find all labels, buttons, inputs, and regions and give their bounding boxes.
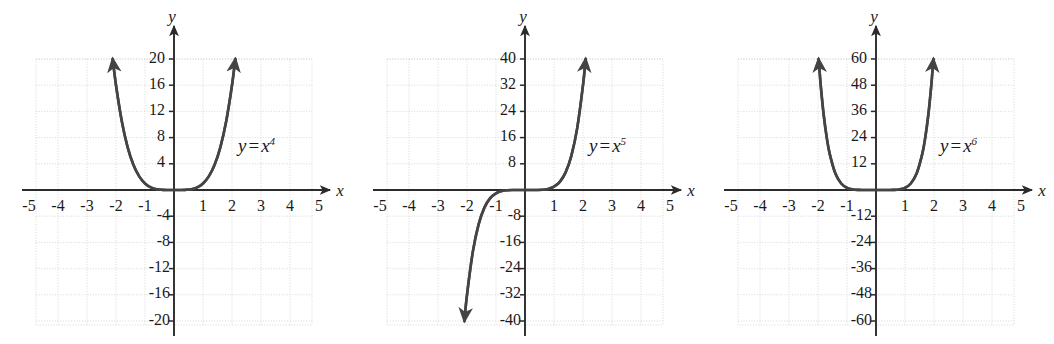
axis-letter-labels: xy (517, 7, 695, 200)
y-axis-tick-labels: 1224364860-12-24-36-48-60 (851, 49, 872, 328)
y-tick-label: 12 (149, 101, 165, 118)
x-tick-label: -3 (782, 197, 795, 214)
x-tick-label: -2 (811, 197, 824, 214)
x-tick-label: -2 (109, 197, 122, 214)
graph-panel-3: xy-5-4-3-2-1123451224364860-12-24-36-48-… (702, 0, 1053, 344)
y-tick-label: 32 (500, 75, 516, 92)
graph-canvas: xy-5-4-3-2-112345816243240-8-16-24-32-40 (351, 0, 702, 344)
y-tick-label: 24 (851, 127, 867, 144)
x-axis-label: x (686, 181, 695, 200)
x-tick-label: 2 (579, 197, 587, 214)
equation-annotation: y=x6 (940, 135, 977, 157)
y-tick-label: -16 (149, 284, 170, 301)
y-tick-label: -20 (149, 311, 170, 328)
x-tick-label: -3 (431, 197, 444, 214)
x-axis-tick-labels: -5-4-3-2-112345 (724, 197, 1025, 214)
y-tick-label: -4 (157, 206, 170, 223)
y-tick-label: 4 (157, 153, 165, 170)
y-tick-label: -12 (149, 258, 170, 275)
x-axis-label: x (335, 181, 344, 200)
x-tick-label: 5 (1017, 197, 1025, 214)
axes (373, 26, 681, 336)
x-tick-label: 2 (930, 197, 938, 214)
y-tick-label: 16 (500, 127, 516, 144)
y-tick-label: -24 (851, 232, 872, 249)
x-tick-label: 1 (550, 197, 558, 214)
equation-annotation: y=x5 (589, 135, 626, 157)
y-tick-label: 16 (149, 75, 165, 92)
x-tick-label: -5 (724, 197, 737, 214)
graph-panel-2: xy-5-4-3-2-112345816243240-8-16-24-32-40… (351, 0, 702, 344)
y-tick-label: -8 (157, 232, 170, 249)
x-tick-label: -1 (138, 197, 151, 214)
equation-equals-sign: = (948, 135, 963, 156)
graph-canvas: xy-5-4-3-2-11234548121620-4-8-12-16-20 (0, 0, 351, 344)
x-tick-label: -4 (402, 197, 415, 214)
equation-exponent: 5 (621, 135, 627, 147)
x-tick-label: -4 (753, 197, 766, 214)
axis-letter-labels: xy (868, 7, 1046, 200)
y-tick-label: -16 (500, 232, 521, 249)
x-tick-label: -5 (373, 197, 386, 214)
y-axis-label: y (517, 7, 527, 26)
x-tick-label: 3 (257, 197, 265, 214)
y-tick-label: 48 (851, 75, 867, 92)
y-tick-label: -8 (508, 206, 521, 223)
x-axis-tick-labels: -5-4-3-2-112345 (373, 197, 674, 214)
y-tick-label: 24 (500, 101, 516, 118)
y-tick-label: 20 (149, 49, 165, 66)
three-panel-power-function-figure: xy-5-4-3-2-11234548121620-4-8-12-16-20y=… (0, 0, 1054, 344)
y-tick-label: -48 (851, 284, 872, 301)
equation-variable-x: x (612, 135, 620, 156)
graph-panel-1: xy-5-4-3-2-11234548121620-4-8-12-16-20y=… (0, 0, 351, 344)
x-axis-label: x (1037, 181, 1046, 200)
x-tick-label: -3 (80, 197, 93, 214)
x-tick-label: 5 (315, 197, 323, 214)
x-tick-label: 2 (228, 197, 236, 214)
x-tick-label: -4 (51, 197, 64, 214)
equation-equals-sign: = (597, 135, 612, 156)
y-tick-label: 12 (851, 153, 867, 170)
equation-annotation: y=x4 (238, 135, 275, 157)
y-tick-label: 60 (851, 49, 867, 66)
y-tick-label: -40 (500, 311, 521, 328)
y-tick-label: 40 (500, 49, 516, 66)
x-tick-label: 3 (959, 197, 967, 214)
x-axis-tick-labels: -5-4-3-2-112345 (22, 197, 323, 214)
y-tick-label: -32 (500, 284, 521, 301)
y-axis-tick-labels: 816243240-8-16-24-32-40 (500, 49, 521, 328)
y-tick-label: -24 (500, 258, 521, 275)
graph-canvas: xy-5-4-3-2-1123451224364860-12-24-36-48-… (702, 0, 1053, 344)
equation-variable-x: x (261, 135, 269, 156)
x-tick-label: 4 (988, 197, 996, 214)
x-tick-label: -5 (22, 197, 35, 214)
y-tick-label: -36 (851, 258, 872, 275)
y-tick-label: 8 (157, 127, 165, 144)
y-tick-label: 36 (851, 101, 867, 118)
y-tick-label: 8 (508, 153, 516, 170)
axes (22, 26, 330, 336)
x-tick-label: -1 (489, 197, 502, 214)
x-tick-label: 4 (286, 197, 294, 214)
y-axis-label: y (868, 7, 878, 26)
x-tick-label: 1 (901, 197, 909, 214)
x-tick-label: 1 (199, 197, 207, 214)
equation-equals-sign: = (246, 135, 261, 156)
x-tick-label: -2 (460, 197, 473, 214)
axes (724, 26, 1032, 336)
equation-exponent: 6 (972, 135, 978, 147)
axis-letter-labels: xy (166, 7, 344, 200)
y-tick-label: -12 (851, 206, 872, 223)
y-axis-label: y (166, 7, 176, 26)
x-tick-label: 5 (666, 197, 674, 214)
x-tick-label: 4 (637, 197, 645, 214)
equation-exponent: 4 (270, 135, 276, 147)
x-tick-label: 3 (608, 197, 616, 214)
y-tick-label: -60 (851, 311, 872, 328)
equation-variable-x: x (963, 135, 971, 156)
